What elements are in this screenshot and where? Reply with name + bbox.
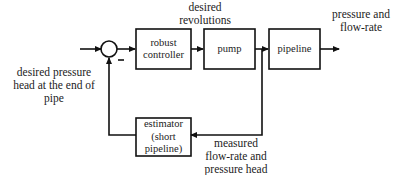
block-label-line: robust <box>150 37 176 50</box>
input-label-line: head at the end of <box>6 79 102 92</box>
signal-label-line: pressure and <box>328 8 394 21</box>
robust-controller-label: robust controller <box>136 29 191 69</box>
signal-label-line: flow-rate and <box>196 150 276 163</box>
signal-label-line: pressure head <box>196 163 276 175</box>
summing-junction <box>101 41 117 57</box>
signal-label-line: measured <box>196 137 276 150</box>
estimator-to-sum-line <box>109 58 136 135</box>
input-label: desired pressure head at the end of pipe <box>6 66 102 105</box>
output-label: pressure and flow-rate <box>328 8 394 34</box>
block-label-line: pipeline) <box>145 143 182 156</box>
feedback-measured-label: measured flow-rate and pressure head <box>196 137 276 175</box>
signal-label-line: desired <box>170 1 240 14</box>
input-label-line: desired pressure <box>6 66 102 79</box>
signal-label-line: flow-rate <box>328 21 394 34</box>
pipeline-label: pipeline <box>269 29 320 69</box>
input-label-line: pipe <box>6 92 102 105</box>
estimator-label: estimator (short pipeline) <box>136 118 191 156</box>
block-label-line: (short <box>151 131 176 144</box>
block-label-line: estimator <box>144 118 183 131</box>
signal-label-line: revolutions <box>170 14 240 27</box>
desired-revolutions-label: desired revolutions <box>170 1 240 27</box>
block-label-line: pipeline <box>278 43 312 56</box>
block-label-line: controller <box>143 49 184 62</box>
block-label-line: pump <box>218 43 242 56</box>
pump-label: pump <box>204 29 255 69</box>
